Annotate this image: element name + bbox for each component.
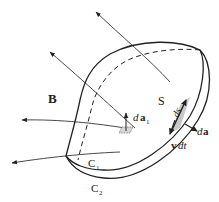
label-c1-sub: 1 bbox=[96, 164, 100, 172]
label-da1-d: d bbox=[133, 111, 139, 123]
label-c2-sub: 2 bbox=[99, 189, 103, 197]
label-surface-s: S bbox=[158, 94, 165, 108]
label-da-a: a bbox=[203, 125, 209, 137]
label-vdt-dt: dt bbox=[178, 139, 188, 151]
label-b-field: B bbox=[48, 91, 57, 106]
field-line-1 bbox=[96, 12, 170, 82]
label-c2: C bbox=[91, 182, 98, 194]
area-element-da1 bbox=[119, 113, 133, 133]
field-lines bbox=[12, 12, 170, 163]
label-da1-sub: 1 bbox=[146, 118, 150, 126]
flux-diagram: B S d a 1 ds d a v dt C 1 C 2 bbox=[0, 0, 219, 202]
label-c1: C bbox=[88, 157, 95, 169]
label-vdt-v: v bbox=[171, 139, 177, 151]
